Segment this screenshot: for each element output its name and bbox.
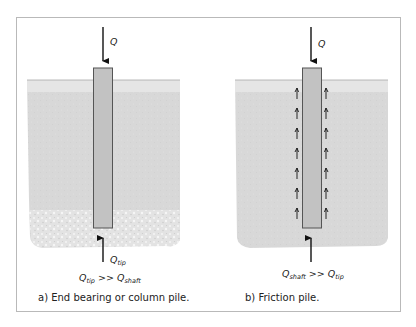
panel-b <box>235 27 388 262</box>
pile-diagram <box>0 0 416 327</box>
relation-left-sub: tip <box>86 277 94 285</box>
caption-a: a) End bearing or column pile. <box>38 292 189 303</box>
relation-left-sub: shaft <box>289 273 305 281</box>
load-label-a: Q <box>110 36 117 47</box>
caption-b: b) Friction pile. <box>245 292 319 303</box>
pile-a <box>94 68 113 228</box>
relation-right-sub: tip <box>335 273 343 281</box>
relation-op: >> <box>309 268 325 279</box>
relation-label-a: Qtip >> Qshaft <box>79 272 141 285</box>
relation-right-sub: shaft <box>124 277 140 285</box>
relation-op: >> <box>98 272 114 283</box>
load-label-b: Q <box>318 38 325 49</box>
tip-reaction-label-a: Qtip <box>110 254 126 267</box>
tip-label-sub: tip <box>117 259 125 267</box>
relation-label-b: Qshaft >> Qtip <box>282 268 344 281</box>
panel-a <box>27 27 180 262</box>
pile-b <box>303 68 322 228</box>
